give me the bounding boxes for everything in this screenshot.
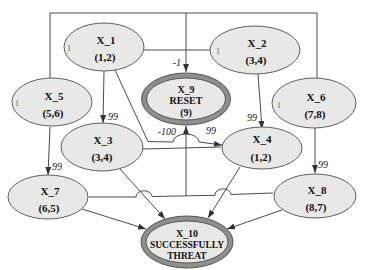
node-x2-value: (3,4) bbox=[245, 54, 266, 67]
node-x10-name: X_10 bbox=[176, 228, 198, 239]
diagram-canvas: -1 -100 99 99 99 99 99 1 X_1 (1,2) 1 X_2… bbox=[0, 0, 365, 270]
node-x4: X_4 (1,2) bbox=[222, 127, 302, 169]
node-x7-value: (6,5) bbox=[38, 202, 59, 215]
node-x9-name: X_9 bbox=[177, 84, 194, 95]
node-x2-ellipse bbox=[210, 26, 300, 74]
state-graph-diagram: -1 -100 99 99 99 99 99 1 X_1 (1,2) 1 X_2… bbox=[0, 0, 365, 270]
edge-label-minus100: -100 bbox=[158, 126, 176, 137]
edge-x1-x3 bbox=[103, 71, 104, 123]
node-x8: X_8 (8,7) bbox=[274, 174, 356, 218]
node-x5: 1 X_5 (5,6) bbox=[12, 78, 92, 126]
node-x2: 1 X_2 (3,4) bbox=[210, 26, 300, 74]
node-x6-port: 1 bbox=[277, 101, 281, 110]
node-x5-port: 1 bbox=[15, 99, 19, 108]
node-x5-name: X_5 bbox=[45, 90, 64, 102]
edge-label-99-x6-x8: 99 bbox=[318, 159, 328, 170]
edge-x4-x10 bbox=[208, 167, 240, 218]
node-x3: X_3 (3,4) bbox=[61, 123, 143, 171]
edge-x7-x10 bbox=[82, 209, 146, 229]
node-x9-value: (9) bbox=[180, 107, 192, 119]
node-x3-ellipse bbox=[61, 123, 143, 171]
node-x3-value: (3,4) bbox=[91, 151, 112, 164]
node-x8-value: (8,7) bbox=[305, 201, 326, 214]
node-x10-line3: THREAT bbox=[167, 251, 207, 261]
node-x6-ellipse bbox=[272, 78, 356, 128]
node-x4-value: (1,2) bbox=[250, 151, 271, 164]
node-x1-name: X_1 bbox=[97, 34, 116, 46]
edge-label-99-x2-x4: 99 bbox=[247, 112, 257, 123]
edge-x7-x8-hops bbox=[89, 189, 273, 197]
node-x2-name: X_2 bbox=[248, 37, 267, 49]
edge-x3-x4 bbox=[143, 147, 221, 149]
node-x1: 1 X_1 (1,2) bbox=[64, 23, 144, 71]
node-x1-value: (1,2) bbox=[94, 51, 115, 64]
edge-label-99-x1-x3: 99 bbox=[108, 111, 118, 122]
node-x7-name: X_7 bbox=[41, 185, 60, 197]
node-x6: 1 X_6 (7,8) bbox=[272, 78, 356, 128]
edge-x2-x4 bbox=[258, 74, 262, 129]
node-x10-threat: X_10 SUCCESSFULLY THREAT bbox=[141, 216, 233, 268]
edge-label-99-x5-x7: 99 bbox=[52, 161, 62, 172]
node-x9-reset: X_9 RESET (9) bbox=[142, 73, 231, 125]
node-x4-name: X_4 bbox=[253, 133, 272, 145]
edge-label-99-x3-x4: 99 bbox=[206, 125, 216, 136]
node-x6-value: (7,8) bbox=[304, 108, 325, 121]
edge-x8-x10 bbox=[227, 210, 282, 229]
node-x1-ellipse bbox=[64, 23, 144, 71]
node-x1-port: 1 bbox=[67, 44, 71, 53]
node-x9-line2: RESET bbox=[170, 95, 203, 106]
node-x10-line2: SUCCESSFULLY bbox=[150, 240, 224, 250]
node-x2-port: 1 bbox=[216, 47, 220, 56]
node-x6-name: X_6 bbox=[307, 91, 326, 103]
edge-x3-x10 bbox=[120, 169, 165, 219]
node-x3-name: X_3 bbox=[94, 134, 113, 146]
edge-x5-x7 bbox=[48, 127, 50, 175]
node-x7: X_7 (6,5) bbox=[8, 175, 88, 219]
edge-label-minus1: -1 bbox=[173, 57, 181, 68]
node-x8-name: X_8 bbox=[308, 184, 327, 196]
node-x5-value: (5,6) bbox=[42, 107, 63, 120]
